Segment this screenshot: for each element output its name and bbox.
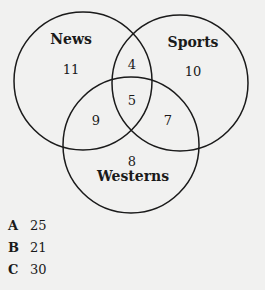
region-news-only: 11 <box>63 62 80 77</box>
region-news-sports: 4 <box>128 57 136 72</box>
region-sports-only: 10 <box>185 64 202 79</box>
region-westerns-only: 8 <box>128 154 136 169</box>
sports-label: Sports <box>168 34 219 50</box>
option-a[interactable]: A25 <box>8 218 47 233</box>
option-b-letter: B <box>8 240 30 255</box>
westerns-label: Westerns <box>97 168 169 184</box>
region-news-westerns: 9 <box>92 113 100 128</box>
option-a-letter: A <box>8 218 30 233</box>
option-b[interactable]: B21 <box>8 240 47 255</box>
news-label: News <box>50 31 92 47</box>
option-c-letter: C <box>8 262 30 277</box>
region-all-three: 5 <box>128 93 136 108</box>
region-sports-westerns: 7 <box>164 113 172 128</box>
option-c[interactable]: C30 <box>8 262 47 277</box>
option-b-value: 21 <box>30 240 47 255</box>
option-c-value: 30 <box>30 262 47 277</box>
venn-diagram <box>0 0 265 220</box>
option-a-value: 25 <box>30 218 47 233</box>
